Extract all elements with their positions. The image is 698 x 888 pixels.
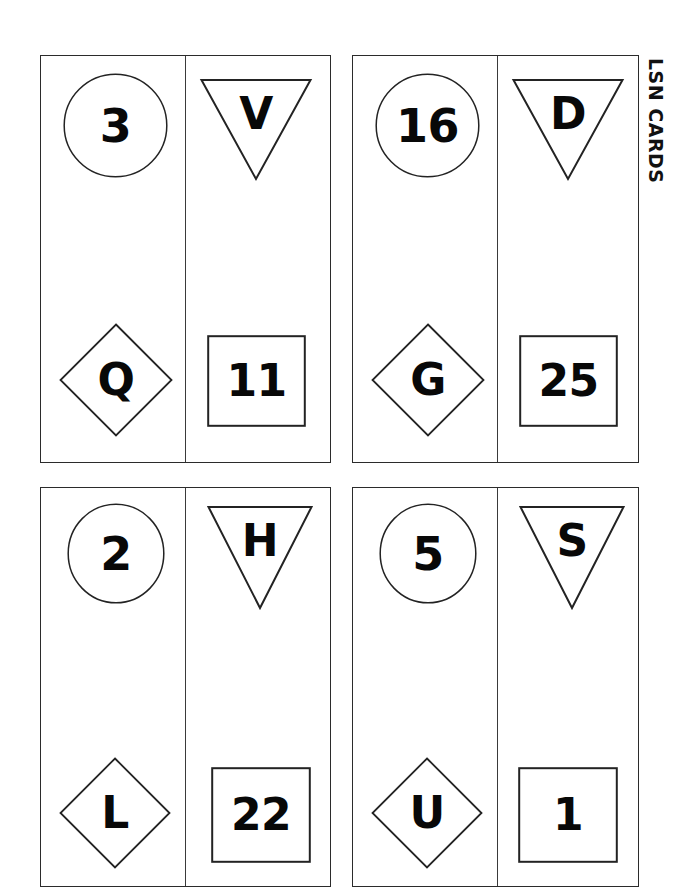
- card-3-cell-bottom-right: 22: [185, 740, 332, 888]
- square-shape[interactable]: 1: [518, 767, 618, 863]
- card-4-cell-top-right: S: [497, 488, 640, 740]
- sheet-caption: LSN CARDS: [645, 58, 667, 184]
- diamond-shape[interactable]: Q: [59, 323, 173, 437]
- triangle-shape[interactable]: H: [207, 505, 313, 610]
- square-value: 25: [519, 335, 618, 427]
- circle-shape[interactable]: 3: [63, 73, 168, 178]
- diamond-shape[interactable]: G: [371, 323, 485, 437]
- diamond-value: L: [59, 757, 171, 869]
- card-1-cell-top-right: V: [185, 56, 332, 316]
- card-3[interactable]: 2 H L 22: [40, 487, 331, 887]
- triangle-value: H: [207, 505, 313, 624]
- circle-value: 3: [63, 73, 168, 178]
- circle-value: 2: [67, 503, 165, 604]
- diamond-shape[interactable]: U: [371, 757, 483, 869]
- circle-shape[interactable]: 16: [375, 73, 480, 178]
- diamond-shape[interactable]: L: [59, 757, 171, 869]
- card-4-cell-top-left: 5: [353, 488, 497, 740]
- triangle-shape[interactable]: S: [519, 505, 625, 610]
- triangle-shape[interactable]: D: [512, 78, 624, 181]
- diamond-value: Q: [59, 323, 173, 437]
- square-value: 22: [211, 767, 311, 863]
- triangle-value: D: [512, 78, 624, 195]
- card-2-cell-bottom-right: 25: [497, 316, 640, 464]
- circle-shape[interactable]: 2: [67, 503, 165, 604]
- triangle-value: V: [200, 78, 312, 195]
- square-value: 1: [518, 767, 618, 863]
- card-2-cell-top-right: D: [497, 56, 640, 316]
- card-1-cell-bottom-left: Q: [41, 316, 185, 464]
- triangle-shape[interactable]: V: [200, 78, 312, 181]
- card-1-cell-top-left: 3: [41, 56, 185, 316]
- card-1-cell-bottom-right: 11: [185, 316, 332, 464]
- card-2-cell-top-left: 16: [353, 56, 497, 316]
- circle-value: 5: [379, 503, 477, 604]
- diamond-value: U: [371, 757, 483, 869]
- triangle-value: S: [519, 505, 625, 624]
- diamond-value: G: [371, 323, 485, 437]
- card-4[interactable]: 5 S U 1: [352, 487, 639, 887]
- card-3-cell-top-left: 2: [41, 488, 185, 740]
- card-3-cell-bottom-left: L: [41, 740, 185, 888]
- card-2-cell-bottom-left: G: [353, 316, 497, 464]
- square-shape[interactable]: 11: [207, 335, 306, 427]
- card-3-cell-top-right: H: [185, 488, 332, 740]
- card-4-cell-bottom-right: 1: [497, 740, 640, 888]
- card-2[interactable]: 16 D G 25: [352, 55, 639, 463]
- card-4-cell-bottom-left: U: [353, 740, 497, 888]
- square-value: 11: [207, 335, 306, 427]
- square-shape[interactable]: 22: [211, 767, 311, 863]
- card-1[interactable]: 3 V Q 11: [40, 55, 331, 463]
- circle-value: 16: [375, 73, 480, 178]
- circle-shape[interactable]: 5: [379, 503, 477, 604]
- square-shape[interactable]: 25: [519, 335, 618, 427]
